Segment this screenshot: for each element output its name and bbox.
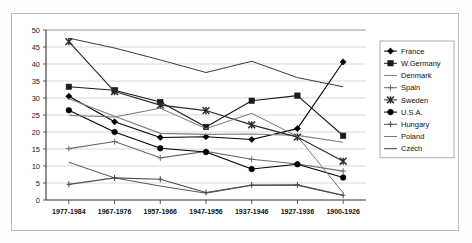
data-point-plus xyxy=(112,139,118,145)
data-point-square xyxy=(66,84,71,89)
x-tick-label: 1967-1976 xyxy=(98,208,132,215)
y-tick-label: 0 xyxy=(36,196,40,205)
data-point-circle xyxy=(340,175,346,181)
legend-item-label: Spain xyxy=(401,83,420,92)
series-line xyxy=(69,42,343,162)
x-tick-label: 1947-1956 xyxy=(189,208,223,215)
data-point-circle xyxy=(295,162,301,168)
data-point-circle xyxy=(203,149,209,155)
data-point-circle xyxy=(249,166,255,172)
legend-item-sweden[interactable]: Sweden xyxy=(384,96,428,105)
y-tick-label: 40 xyxy=(32,60,40,69)
legend-item-label: France xyxy=(401,47,424,56)
data-point-plus xyxy=(249,156,255,162)
x-tick-label: 1927-1936 xyxy=(281,208,315,215)
chart-page: 051015202530354045501977-19841967-197619… xyxy=(0,0,472,243)
legend-item-label: Poland xyxy=(401,132,424,141)
x-tick-label: 1900-1926 xyxy=(326,208,360,215)
data-point-diamond xyxy=(249,136,255,142)
series-czech xyxy=(69,38,343,87)
y-tick-label: 10 xyxy=(32,162,40,171)
y-tick-label: 25 xyxy=(32,111,40,120)
y-tick-label: 45 xyxy=(32,43,40,52)
data-point-diamond xyxy=(66,93,72,99)
x-axis-labels: 1977-19841967-19761957-19661947-19561937… xyxy=(52,200,360,215)
data-point-bar xyxy=(66,181,71,187)
data-point-diamond xyxy=(157,134,163,140)
y-gridlines: 05101520253035404550 xyxy=(32,26,366,205)
data-point-square xyxy=(388,61,393,66)
series-hungary xyxy=(66,175,345,198)
data-point-plus xyxy=(157,155,163,161)
data-point-circle xyxy=(157,146,163,152)
x-tick-label: 1937-1946 xyxy=(235,208,269,215)
legend-item-label: Sweden xyxy=(401,96,428,105)
data-point-circle xyxy=(66,107,72,113)
y-tick-label: 20 xyxy=(32,128,40,137)
series-france xyxy=(66,59,346,143)
data-point-plus xyxy=(340,168,346,174)
y-tick-label: 50 xyxy=(32,26,40,35)
y-tick-label: 30 xyxy=(32,94,40,103)
data-point-diamond xyxy=(294,126,300,132)
legend-item-label: W.Germany xyxy=(401,59,441,68)
legend-item-label: Hungary xyxy=(401,120,430,129)
x-tick-label: 1957-1966 xyxy=(144,208,178,215)
y-tick-label: 5 xyxy=(36,179,40,188)
data-point-square xyxy=(249,98,254,103)
x-tick-label: 1977-1984 xyxy=(52,208,86,215)
data-point-square xyxy=(340,133,345,138)
legend-item-label: U.S.A. xyxy=(401,108,423,117)
line-chart: 051015202530354045501977-19841967-197619… xyxy=(12,14,458,230)
data-point-star xyxy=(248,121,255,128)
data-point-star xyxy=(340,158,347,165)
data-point-square xyxy=(295,93,300,98)
legend-item-label: Denmark xyxy=(401,71,432,80)
data-point-diamond xyxy=(111,119,117,125)
series-line xyxy=(69,142,343,172)
data-point-bar xyxy=(158,176,163,182)
chart-frame: 051015202530354045501977-19841967-197619… xyxy=(11,13,459,231)
y-tick-label: 35 xyxy=(32,77,40,86)
data-point-plus xyxy=(66,146,72,152)
data-point-circle xyxy=(112,129,118,135)
y-tick-label: 15 xyxy=(32,145,40,154)
legend: FranceW.GermanyDenmarkSpainSwedenU.S.A.H… xyxy=(380,41,454,158)
data-point-bar xyxy=(112,175,117,181)
data-point-bar xyxy=(341,192,346,198)
series-spain xyxy=(66,139,346,175)
data-point-bar xyxy=(204,190,209,196)
data-point-circle xyxy=(388,109,394,115)
series-line xyxy=(69,110,343,177)
legend-item-label: Czech xyxy=(401,144,422,153)
series-line xyxy=(69,38,343,87)
data-point-bar xyxy=(295,182,300,188)
